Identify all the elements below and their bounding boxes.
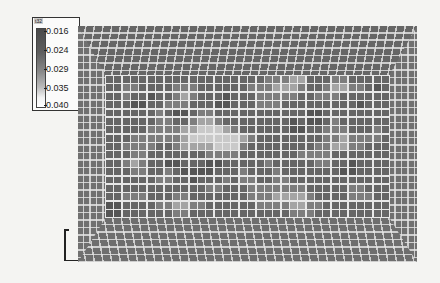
heatmap-cell <box>123 210 130 217</box>
heatmap-cell <box>349 101 356 108</box>
heatmap-cell <box>257 93 264 100</box>
heatmap-cell <box>382 210 389 217</box>
heatmap-cell <box>332 143 339 150</box>
heatmap-cell <box>357 135 364 142</box>
heatmap-cell <box>374 143 381 150</box>
heatmap-cell <box>131 210 138 217</box>
heatmap-cell <box>240 210 247 217</box>
heatmap-cell <box>165 135 172 142</box>
heatmap-cell <box>114 185 121 192</box>
heatmap-cell <box>181 202 188 209</box>
heatmap-cell <box>106 84 113 91</box>
heatmap-cell <box>240 118 247 125</box>
heatmap-cell <box>349 118 356 125</box>
heatmap-cell <box>131 177 138 184</box>
heatmap-cell <box>123 84 130 91</box>
axis-triad-icon <box>62 229 76 263</box>
heatmap-cell <box>148 118 155 125</box>
heatmap-cell <box>190 76 197 83</box>
heatmap-cell <box>181 168 188 175</box>
heatmap-cell <box>231 151 238 158</box>
heatmap-cell <box>114 76 121 83</box>
heatmap-cell <box>357 93 364 100</box>
heatmap-cell <box>273 101 280 108</box>
heatmap-cell <box>315 168 322 175</box>
heatmap-cell <box>265 160 272 167</box>
heatmap-cell <box>215 151 222 158</box>
heatmap-cell <box>190 101 197 108</box>
heatmap-cell <box>139 126 146 133</box>
heatmap-cell <box>181 143 188 150</box>
heatmap-cell <box>357 202 364 209</box>
heatmap-cell <box>131 185 138 192</box>
heatmap-cell <box>282 135 289 142</box>
heatmap-cell <box>282 160 289 167</box>
heatmap-cell <box>165 110 172 117</box>
heatmap-cell <box>349 135 356 142</box>
heatmap-cell <box>223 93 230 100</box>
heatmap-cell <box>114 168 121 175</box>
heatmap-cell <box>365 177 372 184</box>
heatmap-cell <box>156 118 163 125</box>
heatmap-cell <box>156 110 163 117</box>
heatmap-cell <box>123 177 130 184</box>
heatmap-cell <box>323 101 330 108</box>
heatmap-cell <box>307 177 314 184</box>
heatmap-cell <box>165 168 172 175</box>
heatmap-cell <box>139 151 146 158</box>
heatmap-cell <box>365 110 372 117</box>
heatmap-cell <box>198 185 205 192</box>
heatmap-cell <box>190 177 197 184</box>
heatmap-cell <box>257 168 264 175</box>
heatmap-cell <box>240 76 247 83</box>
heatmap-cell <box>123 168 130 175</box>
heatmap-cell <box>114 151 121 158</box>
heatmap-cell <box>114 160 121 167</box>
heatmap-cell <box>190 135 197 142</box>
heatmap-cell <box>215 185 222 192</box>
heatmap-cell <box>190 151 197 158</box>
back-wall-heatmap <box>105 75 390 218</box>
heatmap-cell <box>106 160 113 167</box>
heatmap-cell <box>190 193 197 200</box>
top-wall-mesh <box>78 26 417 76</box>
heatmap-cell <box>357 118 364 125</box>
heatmap-cell <box>156 202 163 209</box>
heatmap-cell <box>156 93 163 100</box>
heatmap-cell <box>298 185 305 192</box>
heatmap-cell <box>248 84 255 91</box>
heatmap-cell <box>265 193 272 200</box>
heatmap-cell <box>156 177 163 184</box>
heatmap-cell <box>265 118 272 125</box>
heatmap-cell <box>123 76 130 83</box>
heatmap-cell <box>273 126 280 133</box>
heatmap-cell <box>257 110 264 117</box>
heatmap-cell <box>165 118 172 125</box>
heatmap-cell <box>290 143 297 150</box>
heatmap-cell <box>349 185 356 192</box>
heatmap-cell <box>374 168 381 175</box>
heatmap-cell <box>323 126 330 133</box>
heatmap-cell <box>165 193 172 200</box>
heatmap-cell <box>148 151 155 158</box>
heatmap-cell <box>198 110 205 117</box>
heatmap-cell <box>307 160 314 167</box>
heatmap-cell <box>223 76 230 83</box>
heatmap-cell <box>298 93 305 100</box>
heatmap-cell <box>198 118 205 125</box>
heatmap-cell <box>240 185 247 192</box>
heatmap-cell <box>290 118 297 125</box>
heatmap-cell <box>340 177 347 184</box>
heatmap-cell <box>307 126 314 133</box>
heatmap-cell <box>323 135 330 142</box>
heatmap-cell <box>131 202 138 209</box>
heatmap-cell <box>282 110 289 117</box>
heatmap-cell <box>307 210 314 217</box>
heatmap-cell <box>148 135 155 142</box>
heatmap-cell <box>215 93 222 100</box>
heatmap-cell <box>332 93 339 100</box>
heatmap-cell <box>374 110 381 117</box>
heatmap-cell <box>240 193 247 200</box>
heatmap-cell <box>349 110 356 117</box>
heatmap-cell <box>206 185 213 192</box>
